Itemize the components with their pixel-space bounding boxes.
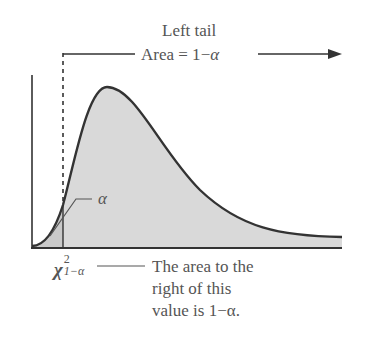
note-line-3: value is 1−α. xyxy=(152,300,240,321)
area-label-minus: − xyxy=(201,45,211,64)
note-line-1: The area to the xyxy=(152,256,253,277)
arrow-head-icon xyxy=(328,49,342,59)
left-tail-title: Left tail xyxy=(162,20,216,41)
left-tail-area xyxy=(32,205,63,248)
area-label: Area = 1−α xyxy=(141,44,219,65)
note-line-2: right of this xyxy=(152,278,231,299)
area-label-alpha: α xyxy=(210,45,219,64)
area-label-prefix: Area = 1 xyxy=(141,45,201,64)
area-under-curve xyxy=(32,87,342,248)
chi-square-critical-label: χ21−α xyxy=(54,256,89,281)
alpha-label: α xyxy=(98,188,107,209)
chi-subscript: 1−α xyxy=(64,261,84,282)
chi-symbol: χ xyxy=(54,259,63,280)
chi-square-left-tail-diagram: Left tail Area = 1−α α χ21−α The area to… xyxy=(0,0,367,339)
